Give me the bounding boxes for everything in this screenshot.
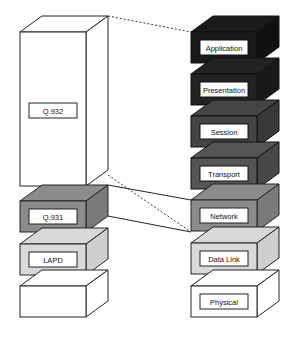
protocol-stack-diagram: Q.932 Q.931 LAPD Application	[0, 0, 296, 338]
osi-layer-physical: Physical	[191, 270, 279, 317]
left-layer-lapd: LAPD	[20, 228, 108, 275]
label-network: Network	[210, 212, 238, 221]
label-transport: Transport	[208, 170, 241, 179]
label-q931: Q.931	[43, 213, 63, 222]
osi-layer-application: Application	[191, 16, 279, 63]
connector-q931-solid	[108, 185, 191, 232]
label-physical: Physical	[210, 298, 238, 307]
label-application: Application	[206, 44, 243, 53]
osi-layer-data-link: Data Link	[191, 227, 279, 274]
connector-q932-dotted	[108, 16, 191, 232]
label-q932: Q.932	[43, 107, 63, 116]
left-layer-q931: Q.931	[20, 185, 108, 232]
left-layer-q932: Q.932	[20, 16, 108, 186]
osi-layer-transport: Transport	[191, 142, 279, 189]
label-session: Session	[211, 128, 238, 137]
osi-layer-presentation: Presentation	[191, 58, 279, 105]
osi-layer-network: Network	[191, 184, 279, 231]
label-data-link: Data Link	[208, 255, 240, 264]
label-lapd: LAPD	[43, 256, 63, 265]
osi-layer-session: Session	[191, 100, 279, 147]
left-layer-physical-empty	[20, 270, 108, 317]
label-presentation: Presentation	[203, 86, 245, 95]
